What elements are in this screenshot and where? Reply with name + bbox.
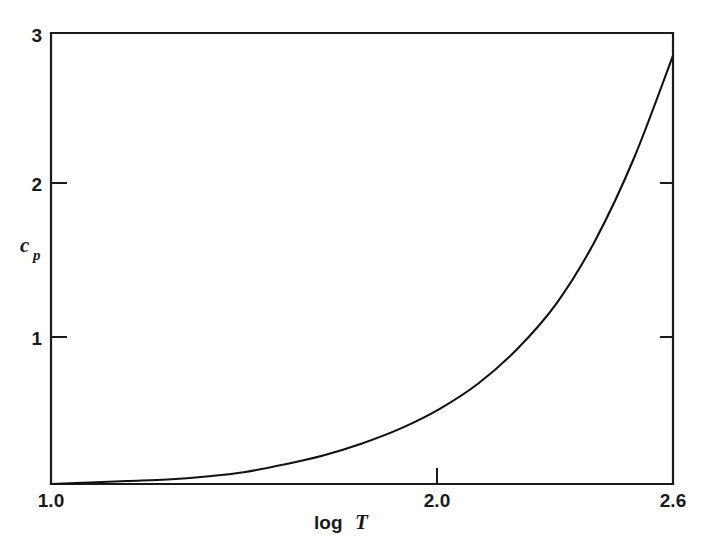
- y-axis-label-subscript: p: [31, 247, 41, 263]
- y-axis-label-symbol: c: [20, 233, 30, 257]
- x-axis-label: log T: [314, 510, 369, 534]
- data-curve-heat-capacity: [51, 56, 673, 484]
- y-axis-label: c p: [20, 233, 41, 263]
- y-tick-label-3: 3: [31, 25, 42, 46]
- x-tick-label-2-0: 2.0: [424, 490, 450, 511]
- x-tick-label-2-6: 2.6: [660, 490, 686, 511]
- chart-svg: 3 2 1 1.0 2.0 2.6 c p log T: [0, 0, 716, 545]
- y-tick-label-2: 2: [31, 174, 42, 195]
- figure-container: 3 2 1 1.0 2.0 2.6 c p log T: [0, 0, 716, 545]
- y-tick-label-1: 1: [31, 328, 42, 349]
- x-tick-label-1-0: 1.0: [38, 490, 64, 511]
- x-axis-label-text: log: [314, 512, 343, 533]
- x-axis-label-variable: T: [355, 510, 369, 534]
